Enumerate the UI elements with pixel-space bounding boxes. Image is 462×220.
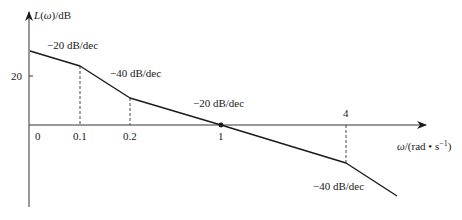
bode-plot: 20 L(ω)/dB ω/(rad • s−1) 0 0.1 0.2 1 4 −… <box>0 0 462 220</box>
crossover-point <box>219 123 224 128</box>
x-tick-label-0.2: 0.2 <box>123 130 137 142</box>
magnitude-curve <box>30 51 397 196</box>
x-tick-label-4: 4 <box>343 107 349 119</box>
y-axis-label: L(ω)/dB <box>33 9 71 22</box>
x-tick-label-0.1: 0.1 <box>73 130 87 142</box>
slope-label-3: −20 dB/dec <box>193 97 244 109</box>
slope-label-1: −20 dB/dec <box>47 39 98 51</box>
x-tick-label-0: 0 <box>35 130 41 142</box>
y-tick-label: 20 <box>11 70 23 82</box>
slope-label-2: −40 dB/dec <box>110 67 161 79</box>
slope-label-4: −40 dB/dec <box>313 180 364 192</box>
x-axis-label: ω/(rad • s−1) <box>397 139 452 153</box>
x-tick-label-1: 1 <box>218 130 224 142</box>
